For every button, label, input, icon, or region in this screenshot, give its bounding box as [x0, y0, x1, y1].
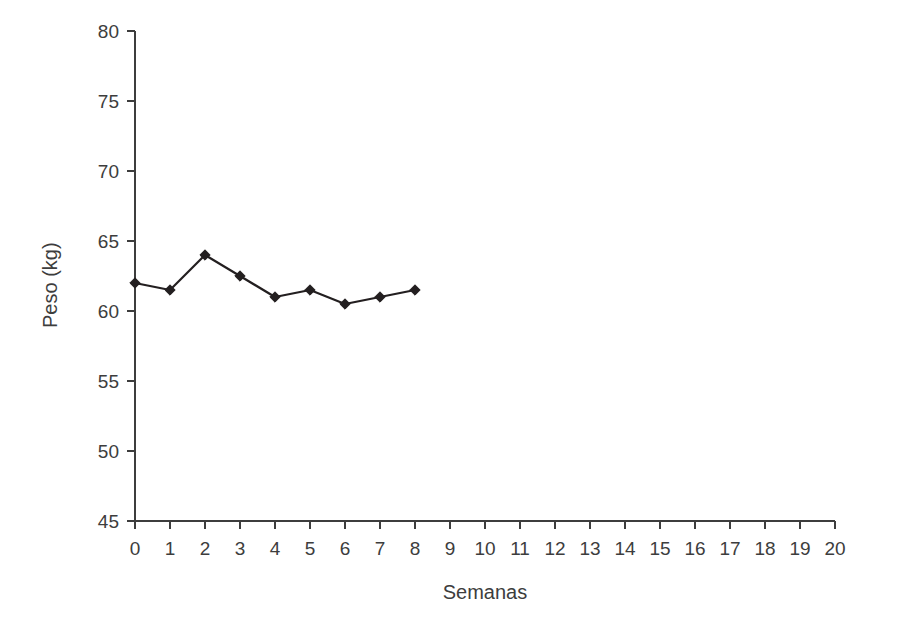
x-axis-tick-label: 11 [510, 539, 530, 558]
x-axis-tick-label: 1 [165, 539, 176, 558]
weight-line-chart: 4550556065707580 01234567891011121314151… [0, 0, 897, 626]
x-axis-tick-label: 8 [410, 539, 421, 558]
x-axis-tick-label: 18 [754, 539, 775, 558]
x-axis-tick-label: 6 [340, 539, 351, 558]
x-axis-tick-label: 12 [544, 539, 565, 558]
x-axis-tick-label: 10 [474, 539, 495, 558]
x-axis-tick-label: 2 [200, 539, 211, 558]
x-axis-tick-label: 7 [375, 539, 386, 558]
y-axis-tick-label: 65 [98, 232, 119, 251]
y-axis-tick-label: 70 [98, 162, 119, 181]
x-axis-tick-label: 14 [614, 539, 635, 558]
x-axis-tick-label: 4 [270, 539, 281, 558]
x-axis-tick-label: 16 [684, 539, 705, 558]
x-axis-tick-label: 17 [719, 539, 740, 558]
y-axis-tick-label: 45 [98, 512, 119, 531]
y-axis-tick-label: 55 [98, 372, 119, 391]
x-axis-tick-label: 13 [579, 539, 600, 558]
x-axis-tick-label: 9 [445, 539, 456, 558]
x-axis-tick-label: 19 [789, 539, 810, 558]
x-axis-tick-label: 0 [130, 539, 141, 558]
x-axis-tick-label: 20 [824, 539, 845, 558]
y-axis-tick-label: 50 [98, 442, 119, 461]
y-axis-tick-label: 60 [98, 302, 119, 321]
chart-series [130, 250, 420, 309]
y-axis-tick-label: 75 [98, 92, 119, 111]
y-axis-tick-label: 80 [98, 22, 119, 41]
x-axis-title: Semanas [443, 582, 528, 602]
y-axis-title: Peso (kg) [40, 242, 60, 328]
chart-plot-area [0, 0, 897, 626]
x-axis-tick-label: 3 [235, 539, 246, 558]
chart-axes [127, 31, 835, 529]
x-axis-tick-label: 5 [305, 539, 316, 558]
x-axis-tick-label: 15 [649, 539, 670, 558]
